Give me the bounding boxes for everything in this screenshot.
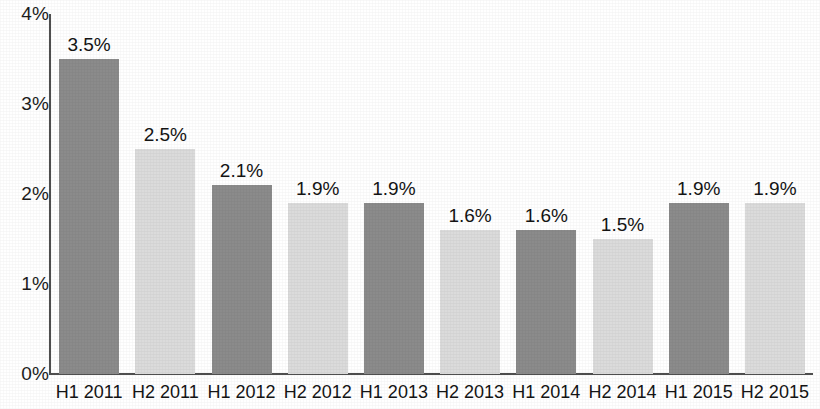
- bar-value-label: 1.9%: [350, 179, 438, 199]
- bar-group[interactable]: 1.9%: [288, 14, 348, 374]
- bar[interactable]: [288, 203, 348, 374]
- bar-group[interactable]: 2.1%: [212, 14, 272, 374]
- bar[interactable]: [212, 185, 272, 374]
- x-axis-tick-label: H2 2012: [276, 381, 360, 403]
- y-axis-tick: 0%: [0, 364, 49, 383]
- x-axis-tick-label: H1 2015: [657, 381, 741, 403]
- bar[interactable]: [59, 59, 119, 374]
- bar-value-label: 1.5%: [579, 215, 667, 235]
- x-axis-tick-label: H2 2013: [428, 381, 512, 403]
- y-axis-tick: 2%: [0, 184, 49, 203]
- x-axis-tick-label: H2 2015: [733, 381, 817, 403]
- bar[interactable]: [135, 149, 195, 374]
- bar[interactable]: [593, 239, 653, 374]
- bar-group[interactable]: 1.9%: [364, 14, 424, 374]
- bar-group[interactable]: 2.5%: [135, 14, 195, 374]
- bar-group[interactable]: 1.6%: [440, 14, 500, 374]
- x-axis-tick-label: H1 2012: [199, 381, 283, 403]
- bar-group[interactable]: 3.5%: [59, 14, 119, 374]
- bar-group[interactable]: 1.6%: [516, 14, 576, 374]
- bar[interactable]: [516, 230, 576, 374]
- x-axis-labels: H1 2011H2 2011H1 2012H2 2012H1 2013H2 20…: [51, 379, 813, 407]
- bar[interactable]: [440, 230, 500, 374]
- y-axis-tick: 4%: [0, 4, 49, 23]
- bar-group[interactable]: 1.9%: [745, 14, 805, 374]
- x-axis-tick-label: H1 2011: [47, 381, 131, 403]
- bar-value-label: 1.9%: [731, 179, 819, 199]
- bar-chart: 4%3%2%1%0% 3.5%2.5%2.1%1.9%1.9%1.6%1.6%1…: [0, 0, 820, 409]
- y-axis-tick: 1%: [0, 274, 49, 293]
- x-axis-tick-label: H1 2014: [504, 381, 588, 403]
- bar-value-label: 1.9%: [274, 179, 362, 199]
- bar-value-label: 1.6%: [426, 206, 514, 226]
- bar-value-label: 2.5%: [121, 125, 209, 145]
- bar[interactable]: [745, 203, 805, 374]
- bar-value-label: 1.9%: [655, 179, 743, 199]
- bar-group[interactable]: 1.9%: [669, 14, 729, 374]
- bar-group[interactable]: 1.5%: [593, 14, 653, 374]
- bar[interactable]: [669, 203, 729, 374]
- y-axis-tick-label: 3%: [5, 94, 49, 113]
- x-axis-tick-label: H1 2013: [352, 381, 436, 403]
- bar[interactable]: [364, 203, 424, 374]
- y-axis-tick-label: 2%: [5, 184, 49, 203]
- bar-value-label: 2.1%: [198, 161, 286, 181]
- bar-value-label: 3.5%: [45, 35, 133, 55]
- y-axis-tick-label: 0%: [5, 364, 49, 383]
- bar-value-label: 1.6%: [502, 206, 590, 226]
- y-axis-tick-label: 1%: [5, 274, 49, 293]
- x-axis-tick-label: H2 2011: [123, 381, 207, 403]
- x-axis-tick-label: H2 2014: [580, 381, 664, 403]
- plot-area: 3.5%2.5%2.1%1.9%1.9%1.6%1.6%1.5%1.9%1.9%: [51, 14, 813, 374]
- y-axis-tick: 3%: [0, 94, 49, 113]
- y-axis-tick-label: 4%: [5, 4, 49, 23]
